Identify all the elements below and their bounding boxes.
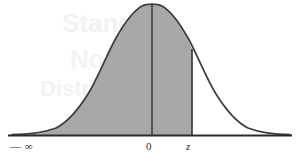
- shaded-area-left-of-z: [18, 4, 192, 135]
- axis-label-negative-infinity: — ∞: [10, 141, 33, 152]
- axis-label-mean-zero: 0: [146, 141, 152, 152]
- axis-label-z: z: [186, 141, 190, 152]
- normal-curve-plot: [0, 0, 300, 159]
- normal-distribution-figure: Standard Normal Distribution — ∞ 0 z: [0, 0, 300, 159]
